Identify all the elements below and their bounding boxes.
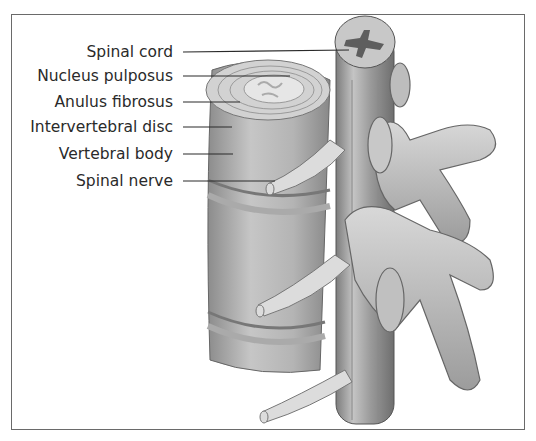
- label-intervertebral-disc: Intervertebral disc: [30, 118, 173, 136]
- label-spinal-nerve: Spinal nerve: [76, 172, 173, 190]
- label-anulus-fibrosus: Anulus fibrosus: [55, 93, 173, 111]
- label-vertebral-body: Vertebral body: [59, 145, 173, 163]
- label-spinal-cord: Spinal cord: [87, 43, 173, 61]
- label-nucleus-pulposus: Nucleus pulposus: [37, 67, 173, 85]
- intervertebral-disc-top: [206, 60, 330, 120]
